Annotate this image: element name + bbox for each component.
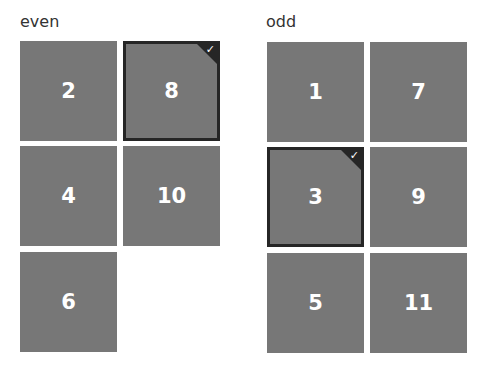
tile-label: 9	[411, 185, 426, 209]
tile-9[interactable]: 9	[370, 147, 467, 247]
tile-1[interactable]: 1	[267, 42, 364, 142]
tile-label: 7	[411, 80, 426, 104]
tile-11[interactable]: 11	[370, 253, 467, 353]
tile-label: 3	[308, 185, 323, 209]
tile-3[interactable]: ✓ 3	[267, 147, 364, 247]
tile-label: 11	[404, 291, 433, 315]
tile-5[interactable]: 5	[267, 253, 364, 353]
tile-label: 1	[308, 80, 323, 104]
tile-label: 5	[308, 291, 323, 315]
tile-label: 10	[157, 184, 186, 208]
tile-10[interactable]: 10	[123, 146, 220, 246]
group-title-odd: odd	[266, 12, 296, 31]
tile-4[interactable]: 4	[20, 146, 117, 246]
tile-label: 2	[61, 79, 76, 103]
tile-8[interactable]: ✓ 8	[123, 41, 220, 141]
group-title-even: even	[20, 12, 59, 31]
checkmark-icon: ✓	[350, 150, 359, 162]
tile-6[interactable]: 6	[20, 252, 117, 352]
tile-2[interactable]: 2	[20, 41, 117, 141]
tile-label: 6	[61, 290, 76, 314]
tile-7[interactable]: 7	[370, 42, 467, 142]
tile-label: 4	[61, 184, 76, 208]
checkmark-icon: ✓	[206, 44, 215, 56]
tile-label: 8	[164, 79, 179, 103]
